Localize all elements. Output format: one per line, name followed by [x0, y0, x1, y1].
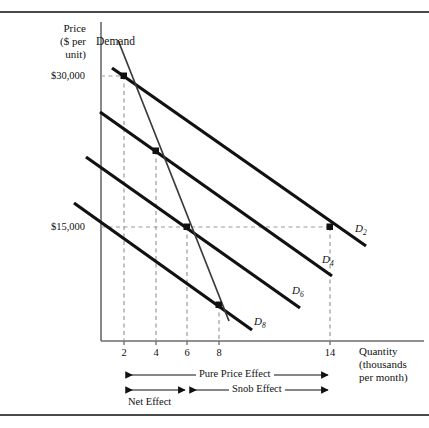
snob-effect-label: Snob Effect: [229, 383, 285, 395]
curve-label-d4-sub: 4: [330, 259, 334, 268]
pure-price-effect-label: Pure Price Effect: [196, 368, 274, 380]
x-axis-title: Quantity (thousands per month): [359, 345, 427, 383]
equilibrium-points: [121, 73, 334, 309]
curve-label-d6-sub: 6: [300, 290, 304, 299]
net-demand-curve: [118, 40, 229, 321]
curve-label-d8-base: D: [254, 315, 262, 327]
curve-label-d2: D2: [355, 222, 367, 238]
x-tick-label-2: 2: [113, 347, 135, 359]
curve-label-d8: D8: [254, 315, 266, 331]
x-axis-title-line-2: (thousands: [359, 358, 427, 371]
demand-curves: [74, 68, 366, 330]
curve-label-d6: D6: [292, 284, 304, 300]
y-tick-label-30000: $30,000: [17, 70, 85, 82]
curve-d2: [112, 68, 366, 246]
axis-lines: [101, 22, 424, 341]
guide-lines: [101, 76, 330, 341]
y-axis-title-line-2: ($ per: [16, 35, 86, 48]
y-axis-title-line-1: Price: [16, 22, 86, 35]
curve-label-d6-base: D: [292, 284, 300, 296]
x-tick-label-8: 8: [208, 347, 230, 359]
y-tick-label-15000: $15,000: [17, 221, 85, 233]
curve-label-d2-sub: 2: [363, 228, 367, 237]
y-axis-title: Price ($ per unit): [16, 22, 86, 60]
curve-label-d4: D4: [322, 253, 334, 269]
curve-label-d2-base: D: [355, 222, 363, 234]
curve-label-d8-sub: 8: [262, 321, 266, 330]
x-axis-title-line-3: per month): [359, 371, 427, 384]
x-tick-label-14: 14: [319, 347, 341, 359]
net-effect-label: Net Effect: [125, 396, 174, 408]
curve-d4: [100, 112, 332, 276]
figure-container: Price ($ per unit) Quantity (thousands p…: [0, 0, 429, 428]
curve-label-d4-base: D: [322, 253, 330, 265]
y-axis-title-line-3: unit): [16, 48, 86, 61]
x-tick-label-4: 4: [145, 347, 167, 359]
demand-curve-label: Demand: [96, 35, 135, 48]
x-tick-label-6: 6: [176, 347, 198, 359]
x-axis-title-line-1: Quantity: [359, 345, 427, 358]
